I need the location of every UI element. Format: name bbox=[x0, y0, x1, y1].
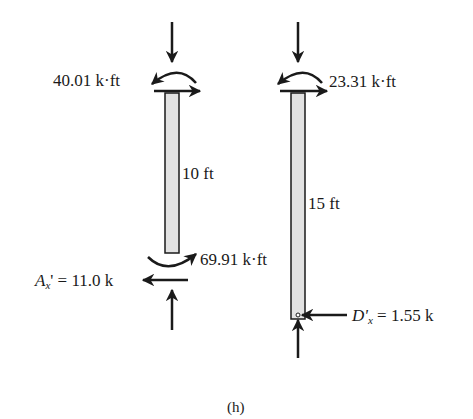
left-top-moment-arrow-icon bbox=[152, 73, 196, 84]
right-reaction-label: D'x = 1.55 k bbox=[352, 307, 433, 326]
left-length-label: 10 ft bbox=[182, 165, 214, 182]
left-bottom-moment-arrow-icon bbox=[148, 254, 196, 266]
left-column-member bbox=[165, 93, 179, 253]
left-reaction-label: Ax' = 11.0 k bbox=[35, 272, 113, 291]
right-top-moment-label: 23.31 k·ft bbox=[329, 73, 396, 90]
free-body-diagram bbox=[0, 0, 473, 419]
right-top-moment-arrow-icon bbox=[278, 73, 322, 84]
figure-caption: (h) bbox=[227, 400, 245, 415]
right-length-label: 15 ft bbox=[308, 195, 340, 212]
pin-icon bbox=[296, 313, 300, 317]
left-top-moment-label: 40.01 k·ft bbox=[53, 72, 120, 89]
right-column-member bbox=[291, 93, 305, 319]
left-bottom-moment-label: 69.91 k·ft bbox=[200, 251, 267, 268]
